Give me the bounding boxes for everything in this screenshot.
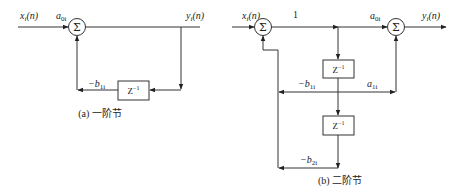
sum-symbol: Σ: [392, 21, 400, 34]
fb2-gain-label: −b2i: [300, 154, 317, 167]
caption-a: (a) 一阶节: [78, 107, 122, 120]
diagram-first-order-section: xi(n) a0i Σ yi(n) Z−1 −b1i (a) 一阶节: [18, 10, 205, 120]
output-label: yi(n): [185, 10, 205, 23]
fb1-gain-label: −b1i: [298, 78, 315, 91]
output-label: yi(n): [421, 10, 441, 23]
diagram-second-order-section: xi(n) Σ 1 a0i Σ yi(n) Z−1 −b1i a1i Z−1: [232, 9, 446, 187]
ff1-gain-label: a1i: [367, 78, 378, 91]
input-label: xi(n): [19, 10, 39, 23]
gain-a0-label: a0i: [56, 10, 67, 23]
sum-symbol: Σ: [73, 21, 81, 34]
sum-symbol: Σ: [259, 21, 267, 34]
block-diagrams: xi(n) a0i Σ yi(n) Z−1 −b1i (a) 一阶节 xi(n)…: [0, 0, 451, 193]
unity-gain-label: 1: [293, 9, 298, 20]
gain-a0-label: a0i: [370, 10, 381, 23]
feedback-gain-label: −b1i: [88, 78, 105, 91]
caption-b: (b) 二阶节: [318, 174, 362, 187]
